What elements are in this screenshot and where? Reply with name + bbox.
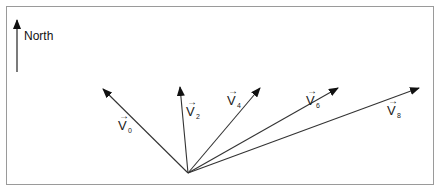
north-indicator: North: [17, 20, 53, 72]
vector-diagram: North →V0→V2→V4→V6→V8: [0, 0, 440, 187]
vector-name: V: [387, 103, 396, 118]
vector-name: V: [118, 118, 127, 133]
vector-name: V: [306, 93, 315, 108]
vector-subscript: 4: [237, 102, 241, 109]
vector-label-6: →V6: [306, 85, 320, 109]
vector-arrow-0: [103, 89, 188, 173]
vector-arrow-8: [188, 88, 419, 173]
vector-subscript: 2: [196, 113, 200, 120]
vector-subscript: 0: [128, 127, 132, 134]
vector-arrow-6: [188, 88, 338, 173]
vector-label-4: →V4: [227, 85, 241, 109]
north-label: North: [24, 29, 53, 43]
vector-label-0: →V0: [118, 110, 132, 134]
vector-group: →V0→V2→V4→V6→V8: [103, 85, 419, 173]
vector-name: V: [186, 104, 195, 119]
vector-subscript: 8: [397, 112, 401, 119]
vector-label-8: →V8: [387, 95, 401, 119]
vector-name: V: [227, 93, 236, 108]
vector-label-2: →V2: [186, 96, 200, 120]
vector-subscript: 6: [316, 102, 320, 109]
